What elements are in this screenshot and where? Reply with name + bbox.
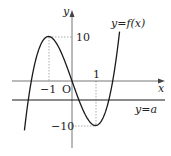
function-label: y=f(x) xyxy=(110,17,145,30)
y-axis-arrow-icon xyxy=(70,10,75,17)
tick-label-x-neg1: −1 xyxy=(40,83,56,96)
y-axis-label: y xyxy=(62,5,70,18)
function-graph: y x O −1 1 10 −10 y=f(x) y=a xyxy=(0,0,171,156)
x-axis-label: x xyxy=(158,82,165,95)
x-axis xyxy=(12,79,165,84)
tick-label-y-10: 10 xyxy=(76,31,90,44)
line-a-label: y=a xyxy=(134,103,157,116)
tick-label-y-neg10: −10 xyxy=(51,120,74,133)
tick-label-x-pos1: 1 xyxy=(93,68,100,81)
origin-label: O xyxy=(62,83,71,96)
